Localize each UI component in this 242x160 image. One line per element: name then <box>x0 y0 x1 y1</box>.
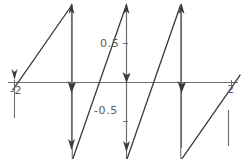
sawtooth-plot-svg <box>0 0 242 159</box>
curve-arrowheads <box>12 3 187 152</box>
arrowhead-down-left <box>12 69 18 80</box>
x-tick-label-2: 2 <box>227 83 235 96</box>
plot-canvas: -2 2 0.5 -0.5 <box>0 0 242 159</box>
discontinuity-jumps <box>15 5 229 150</box>
y-tick-label-neg-0.5: -0.5 <box>94 104 118 117</box>
ramp-segment-3 <box>72 5 126 160</box>
ramp-segment-1 <box>13 5 73 91</box>
ramp-segment-5 <box>127 5 181 160</box>
y-tick-label-0.5: 0.5 <box>100 37 119 50</box>
x-tick-label-neg-2: -2 <box>10 84 22 97</box>
